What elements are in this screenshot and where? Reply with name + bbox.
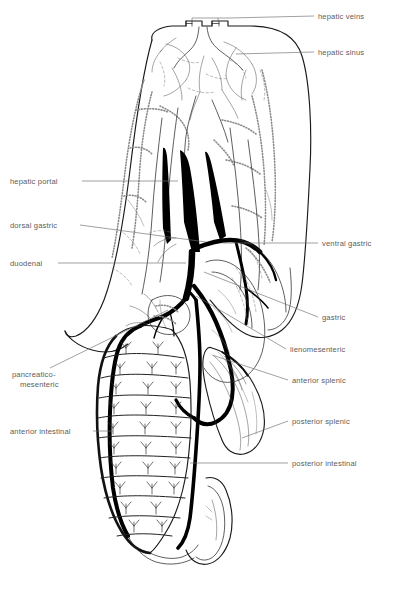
label-ventral-gastric: ventral gastric <box>322 239 372 248</box>
leader-gastric <box>204 272 318 317</box>
label-dorsal-gastric: dorsal gastric <box>10 221 57 230</box>
label-pancreatico-line2: mesenteric <box>20 380 59 389</box>
liver-left-lobe-lumen-2 <box>142 118 162 294</box>
stomach-outline <box>204 260 265 382</box>
gastric-vein-sub <box>246 288 268 308</box>
label-anterior-intestinal: anterior intestinal <box>10 427 71 436</box>
anterior-intestinal-vein <box>110 326 140 536</box>
dorsal-gastric-vessels <box>148 231 176 262</box>
liver-median-notch <box>174 27 199 68</box>
label-posterior-splenic: posterior splenic <box>292 417 350 426</box>
rectal-pouch-vessel <box>212 500 217 540</box>
portal-posterior-link <box>189 292 196 300</box>
hepatic-portal-system-drawing: hepatic veins hepatic sinus hepatic port… <box>0 0 394 594</box>
posterior-intestinal-vein <box>178 300 200 548</box>
label-hepatic-veins: hepatic veins <box>318 12 364 21</box>
hepatic-portal-trunk <box>180 150 200 252</box>
label-lienomesenteric: lienomesenteric <box>290 345 345 354</box>
liver-right-lobe-lumen <box>230 128 242 290</box>
label-posterior-intestinal: posterior intestinal <box>292 459 357 468</box>
intestine-left-wall <box>97 336 150 553</box>
leader-lines <box>50 16 318 463</box>
leader-posterior-splenic <box>242 421 288 438</box>
label-hepatic-sinus: hepatic sinus <box>318 48 364 57</box>
spleen-outline <box>203 347 264 454</box>
rectal-pouch-inner <box>196 486 225 560</box>
rectal-pouch-vessel-twig <box>206 506 212 520</box>
spleen-structure <box>203 347 264 454</box>
hepatic-vein-stub-left <box>186 21 192 26</box>
label-duodenal: duodenal <box>10 259 43 268</box>
stomach-structure <box>204 240 286 382</box>
intestine-terminal <box>150 545 198 558</box>
hepatic-portal-branch-left <box>162 148 171 244</box>
liver-outline <box>152 21 311 337</box>
label-anterior-splenic: anterior splenic <box>292 376 346 385</box>
anatomical-figure: hepatic veins hepatic sinus hepatic port… <box>0 0 394 594</box>
liver-sinusoid-bands-right <box>214 70 275 246</box>
portal-vein-system <box>110 148 276 548</box>
leader-lienomesenteric <box>196 296 286 349</box>
intestine-top-cap <box>116 325 172 336</box>
leader-hepatic-sinus <box>236 52 314 54</box>
duodenal-vein <box>140 298 186 326</box>
liver-right-tongue <box>268 268 291 330</box>
hepatic-sinus-network <box>152 38 265 120</box>
label-gastric: gastric <box>322 313 345 322</box>
leader-anterior-splenic <box>212 355 288 380</box>
ventral-gastric-vein-tip <box>260 252 276 280</box>
spleen-internal-4 <box>252 392 257 434</box>
liver-sinusoid-bands-left <box>112 80 189 258</box>
leader-hepatic-veins <box>192 16 314 18</box>
label-hepatic-portal: hepatic portal <box>10 177 58 186</box>
label-pancreatico-line1: pancreatico- <box>12 370 56 379</box>
hepatic-portal-branch-right <box>205 152 226 240</box>
leader-pancreatico-mesenteric <box>50 310 168 368</box>
